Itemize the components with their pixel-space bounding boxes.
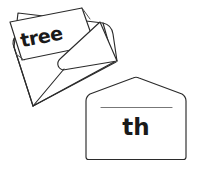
illustration-canvas: tree th bbox=[0, 0, 199, 173]
closed-envelope-label-text: th bbox=[122, 114, 149, 140]
closed-envelope-group: th bbox=[86, 77, 186, 159]
line-art-drawing: tree th bbox=[0, 0, 199, 173]
